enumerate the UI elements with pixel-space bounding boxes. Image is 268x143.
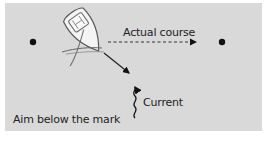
start-mark-dot — [30, 39, 36, 45]
boat-wake — [66, 52, 104, 54]
sailboat-icon — [45, 5, 109, 69]
current-arrow-icon — [134, 87, 137, 118]
heading-arrow — [104, 53, 129, 73]
current-label: Current — [143, 96, 183, 109]
caption-label: Aim below the mark — [13, 113, 120, 126]
target-mark-dot — [219, 39, 225, 45]
actual-course-label: Actual course — [123, 26, 195, 39]
